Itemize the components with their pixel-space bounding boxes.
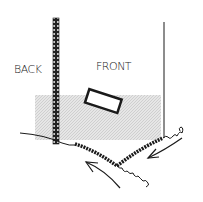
label-back: BACK <box>14 63 41 76</box>
bottom-edge-right <box>117 138 163 166</box>
squiggle-bottom <box>117 166 149 187</box>
label-front: FRONT <box>96 60 131 73</box>
squiggle-right <box>163 127 183 138</box>
sketch-diagram: BACK FRONT <box>0 0 203 202</box>
sketch-svg <box>0 0 203 202</box>
ground-line <box>62 143 75 145</box>
back-wall-post <box>53 18 59 144</box>
